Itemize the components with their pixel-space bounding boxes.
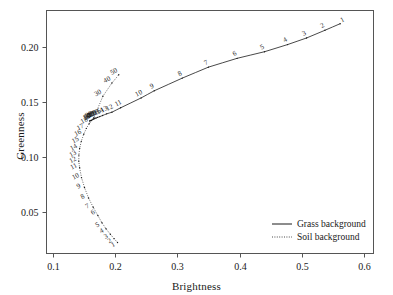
data-point-label: 5 — [259, 43, 266, 52]
data-point-label: 6 — [231, 49, 238, 58]
data-point — [97, 117, 98, 118]
data-point — [81, 177, 82, 178]
data-point — [102, 115, 103, 116]
data-point — [120, 107, 121, 108]
data-point-labels-layer: 1234567891011121314151617181920304050123… — [68, 15, 346, 249]
x-tick-label: 0.1 — [47, 261, 60, 272]
data-series-layer — [78, 23, 341, 243]
y-tick-label: 0.05 — [21, 207, 39, 218]
data-point — [79, 167, 80, 168]
x-tick-label: 0.3 — [171, 261, 184, 272]
data-point — [208, 66, 209, 67]
data-point — [106, 113, 107, 114]
x-tick-label: 0.4 — [234, 261, 247, 272]
x-axis-ticks: 0.10.20.30.40.50.6 — [47, 254, 371, 272]
data-point — [339, 23, 340, 24]
x-tick-label: 0.5 — [296, 261, 309, 272]
data-point — [306, 37, 307, 38]
data-point — [93, 207, 94, 208]
data-point — [88, 123, 89, 124]
data-point — [81, 141, 82, 142]
data-point — [182, 77, 183, 78]
data-point — [84, 187, 85, 188]
data-point — [117, 242, 118, 243]
data-point — [102, 96, 103, 97]
data-point-label: 40 — [102, 74, 112, 85]
plot-frame — [47, 11, 374, 254]
series-line-dotted — [79, 75, 119, 243]
data-point-label: 3 — [301, 29, 308, 38]
y-axis-title: Greenness — [14, 86, 26, 186]
data-point — [105, 228, 106, 229]
data-point-label: 9 — [148, 82, 155, 91]
data-point — [78, 154, 79, 155]
data-point — [140, 97, 141, 98]
data-point — [236, 58, 237, 59]
legend: Grass backgroundSoil background — [272, 219, 366, 242]
data-point — [287, 44, 288, 45]
data-point-label: 5 — [94, 220, 101, 229]
data-point — [88, 197, 89, 198]
series-line-solid — [90, 24, 340, 121]
data-point-label: 50 — [109, 66, 119, 77]
data-point-label: 9 — [75, 182, 82, 191]
data-point — [113, 238, 114, 239]
y-tick-label: 0.20 — [21, 42, 39, 53]
data-point-label: 7 — [203, 58, 210, 67]
data-point-label: 1 — [339, 15, 346, 24]
data-point-label: 8 — [176, 69, 183, 78]
data-point — [86, 128, 87, 129]
data-point — [89, 120, 90, 121]
data-point-label: 8 — [79, 192, 86, 201]
x-axis-title: Brightness — [0, 280, 393, 292]
data-point — [111, 112, 112, 113]
data-point-label: 4 — [282, 35, 289, 44]
data-point — [97, 215, 98, 216]
legend-label: Grass background — [297, 219, 366, 229]
data-point — [78, 160, 79, 161]
data-point — [99, 116, 100, 117]
data-point — [79, 148, 80, 149]
data-point — [91, 120, 92, 121]
data-point — [111, 82, 112, 83]
data-point — [324, 30, 325, 31]
x-tick-label: 0.6 — [358, 261, 371, 272]
data-point — [95, 117, 96, 118]
data-point — [101, 222, 102, 223]
chart-figure: 0.10.20.30.40.50.6 0.050.100.150.20 1234… — [0, 0, 393, 295]
data-point — [118, 74, 119, 75]
data-point-label: 2 — [319, 21, 326, 30]
data-point-label: 6 — [90, 208, 97, 217]
data-point — [110, 234, 111, 235]
data-point — [264, 51, 265, 52]
x-tick-label: 0.2 — [109, 261, 122, 272]
data-point-label: 7 — [84, 201, 91, 210]
data-point-label: 30 — [93, 88, 103, 99]
data-point — [83, 134, 84, 135]
data-point — [154, 90, 155, 91]
scatter-line-plot: 0.10.20.30.40.50.6 0.050.100.150.20 1234… — [0, 0, 393, 295]
data-point-label: 10 — [71, 171, 81, 182]
legend-label: Soil background — [297, 232, 360, 242]
